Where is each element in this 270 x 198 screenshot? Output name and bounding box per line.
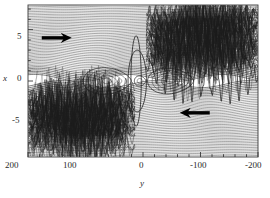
plot-svg [0, 0, 270, 198]
y-axis-title: x [3, 73, 7, 83]
xtick-label-neg200: -200 [245, 160, 262, 170]
figure-canvas: 200 100 0 -100 -200 5 0 -5 x y [0, 0, 270, 198]
xtick-label-100: 100 [63, 160, 77, 170]
ytick-label-5: 5 [17, 31, 22, 41]
xtick-label-200: 200 [5, 160, 19, 170]
xtick-label-neg100: -100 [190, 160, 207, 170]
xtick-label-0: 0 [139, 160, 144, 170]
ytick-label-neg5: -5 [12, 115, 20, 125]
ytick-label-0: 0 [17, 73, 22, 83]
x-axis-title: y [140, 178, 144, 188]
